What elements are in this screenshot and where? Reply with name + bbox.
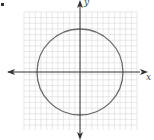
y-axis: [77, 0, 83, 140]
coordinate-graph: [0, 0, 154, 140]
y-axis-label: y: [84, 0, 89, 7]
x-axis-label: x: [146, 72, 151, 82]
